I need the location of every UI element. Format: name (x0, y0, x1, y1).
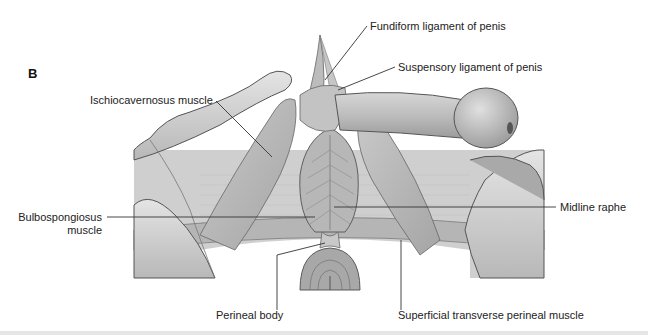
label-bulbospongiosus-line1: Bulbospongiosus (18, 211, 102, 224)
anatomy-figure: B Fundiform ligament of penis Suspensory… (0, 0, 648, 335)
label-bulbospongiosus-line2: muscle (18, 224, 102, 237)
perineum-illustration (0, 0, 648, 335)
bulbospongiosus-muscle (300, 128, 358, 232)
label-ischiocavernosus-muscle: Ischiocavernosus muscle (90, 94, 213, 107)
label-fundiform-ligament: Fundiform ligament of penis (370, 20, 506, 33)
bottom-edge-bar (0, 331, 648, 335)
glans (454, 88, 518, 148)
urethral-meatus (507, 122, 513, 134)
penis-shaft (335, 92, 465, 138)
leader-suspensory (338, 67, 395, 90)
label-midline-raphe: Midline raphe (560, 201, 626, 214)
label-suspensory-ligament: Suspensory ligament of penis (398, 61, 542, 74)
label-perineal-body: Perineal body (216, 309, 283, 322)
label-superficial-transverse-perineal: Superficial transverse perineal muscle (398, 309, 584, 322)
panel-letter: B (28, 66, 37, 81)
leader-fundiform (325, 26, 367, 80)
